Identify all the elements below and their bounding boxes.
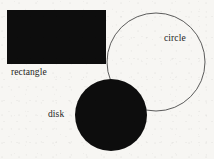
shape-canvas bbox=[0, 0, 214, 159]
disk-shape bbox=[75, 79, 147, 151]
disk-label: disk bbox=[48, 110, 64, 120]
circle-label: circle bbox=[164, 34, 186, 44]
geometry-figure: rectangle circle disk bbox=[0, 0, 214, 159]
rectangle-label: rectangle bbox=[11, 68, 47, 78]
rectangle-shape bbox=[7, 10, 106, 64]
